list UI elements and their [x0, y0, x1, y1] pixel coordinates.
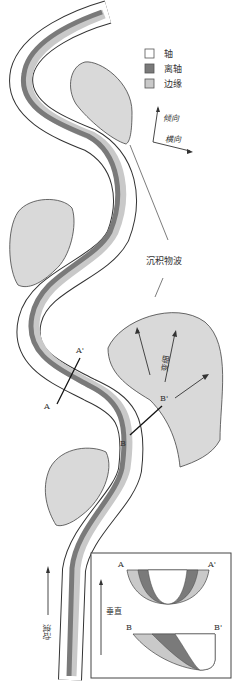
leader-line-lower	[155, 278, 163, 297]
legend-swatch-axis	[145, 49, 154, 58]
legend-swatch-margin	[145, 79, 154, 88]
legend-swatch-off-axis	[145, 64, 154, 73]
channel-diagram: 轴 离轴 边缘 倾向 横向 沉积物波 变细 A A' B B' 流动	[0, 0, 236, 688]
legend-label-axis: 轴	[164, 48, 173, 59]
orientation-indicator: 倾向 横向	[153, 106, 193, 154]
legend-label-off-axis: 离轴	[164, 63, 182, 74]
vertical-label: 垂直	[106, 606, 122, 616]
legend: 轴 离轴 边缘	[145, 48, 182, 89]
strike-arrow-head-icon	[187, 149, 193, 154]
strike-label: 横向	[165, 135, 182, 144]
dip-label: 倾向	[163, 114, 180, 123]
section-a-end: A'	[75, 346, 84, 355]
section-a-start: A	[43, 402, 50, 411]
inset-a-start: A	[117, 560, 124, 569]
flow-label: 流动	[42, 624, 52, 640]
inset-b-start: B	[126, 623, 132, 632]
section-b-end: B'	[160, 394, 168, 403]
sediment-waves-label: 沉积物波	[146, 255, 182, 266]
flow-arrow-head-icon	[46, 566, 50, 573]
inset-a-end: A'	[207, 560, 216, 569]
inset-b-end: B'	[214, 623, 222, 632]
legend-label-margin: 边缘	[164, 78, 182, 89]
cross-section-inset: 垂直 A A' B B'	[91, 553, 231, 678]
section-b-start: B	[120, 439, 126, 448]
dip-arrow-head-icon	[156, 106, 160, 112]
